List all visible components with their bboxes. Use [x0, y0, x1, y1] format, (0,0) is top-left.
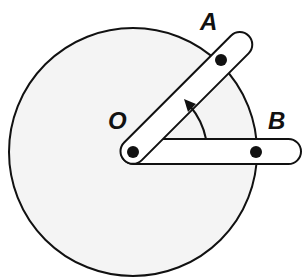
dot-a [215, 54, 227, 66]
label-a: A [199, 8, 217, 35]
label-b: B [268, 107, 285, 134]
diagram-canvas: O A B [0, 0, 305, 279]
pivot-dot-o [127, 146, 139, 158]
disk-bars-diagram: O A B [0, 0, 305, 279]
dot-b [250, 146, 262, 158]
label-o: O [108, 107, 127, 134]
